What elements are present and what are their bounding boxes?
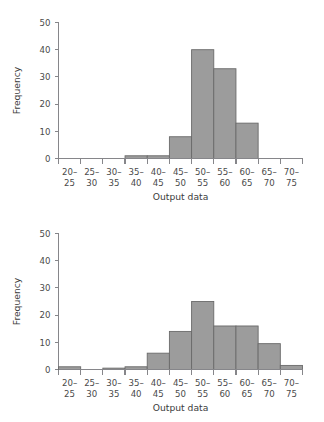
x-tick-label: 70–75 bbox=[284, 378, 299, 399]
y-tick-label: 10 bbox=[40, 127, 51, 137]
x-tick-label: 60–65 bbox=[239, 167, 254, 188]
x-tick-label: 70–75 bbox=[284, 167, 299, 188]
x-tick-label: 65–70 bbox=[262, 378, 277, 399]
x-tick-label: 55–60 bbox=[217, 167, 232, 188]
chart-panel-bottom: 01020304050Frequency20–2525–3030–3535–40… bbox=[0, 211, 324, 422]
y-axis-title: Frequency bbox=[11, 277, 22, 325]
histogram-bar bbox=[258, 344, 280, 370]
x-tick-label: 50–55 bbox=[195, 167, 210, 188]
histogram-bar bbox=[236, 326, 258, 370]
y-tick-label: 0 bbox=[45, 365, 50, 375]
y-tick-label: 30 bbox=[40, 283, 51, 293]
histogram-top-plot: 01020304050Frequency20–2525–3030–3535–40… bbox=[0, 0, 324, 211]
y-tick-label: 20 bbox=[40, 310, 51, 320]
histogram-bar bbox=[192, 302, 214, 370]
y-tick-label: 40 bbox=[40, 45, 51, 55]
x-tick-label: 55–60 bbox=[217, 378, 232, 399]
y-tick-label: 20 bbox=[40, 99, 51, 109]
histogram-bar bbox=[192, 50, 214, 159]
x-tick-label: 25–30 bbox=[84, 378, 99, 399]
x-tick-label: 20–25 bbox=[62, 378, 77, 399]
histogram-bar bbox=[214, 326, 236, 370]
x-tick-label: 40–45 bbox=[151, 378, 166, 399]
x-tick-label: 50–55 bbox=[195, 378, 210, 399]
x-tick-label: 65–70 bbox=[262, 167, 277, 188]
y-tick-label: 0 bbox=[45, 154, 50, 164]
x-tick-label: 35–40 bbox=[129, 378, 144, 399]
histogram-bar bbox=[236, 123, 258, 158]
x-tick-label: 35–40 bbox=[129, 167, 144, 188]
y-tick-label: 50 bbox=[40, 18, 51, 28]
y-tick-label: 30 bbox=[40, 72, 51, 82]
histogram-bottom-plot: 01020304050Frequency20–2525–3030–3535–40… bbox=[0, 211, 324, 422]
histogram-figure: 01020304050Frequency20–2525–3030–3535–40… bbox=[0, 0, 324, 422]
x-tick-label: 60–65 bbox=[239, 378, 254, 399]
chart-panel-top: 01020304050Frequency20–2525–3030–3535–40… bbox=[0, 0, 324, 211]
x-tick-label: 20–25 bbox=[62, 167, 77, 188]
histogram-bar bbox=[147, 353, 169, 369]
y-tick-label: 50 bbox=[40, 229, 51, 239]
x-tick-label: 25–30 bbox=[84, 167, 99, 188]
y-tick-label: 10 bbox=[40, 338, 51, 348]
x-tick-label: 30–35 bbox=[106, 167, 121, 188]
y-axis-title: Frequency bbox=[11, 66, 22, 114]
y-tick-label: 40 bbox=[40, 256, 51, 266]
histogram-bar bbox=[169, 137, 191, 159]
histogram-bar bbox=[280, 365, 302, 369]
x-axis-title: Output data bbox=[153, 402, 209, 413]
histogram-bar bbox=[214, 69, 236, 159]
x-tick-label: 40–45 bbox=[151, 167, 166, 188]
histogram-bar bbox=[169, 331, 191, 369]
x-tick-label: 30–35 bbox=[106, 378, 121, 399]
x-axis-title: Output data bbox=[153, 191, 209, 202]
x-tick-label: 45–50 bbox=[173, 167, 188, 188]
x-tick-label: 45–50 bbox=[173, 378, 188, 399]
